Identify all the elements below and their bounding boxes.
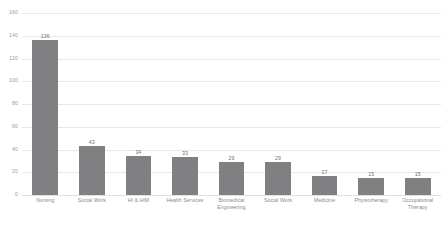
bar-chart: 160140120100806040200 136433433292917151… [0,0,443,229]
bar-slot: 15 [405,13,431,195]
x-category-label-line: HI & HIM [115,197,162,204]
x-category-label: Nursing [22,197,69,204]
y-tick-label-160: 160 [0,10,18,15]
bar-slot: 33 [172,13,198,195]
x-category-label: BiomedicalEngineering [208,197,255,211]
plot-area: 160140120100806040200 136433433292917151… [0,0,443,229]
bar-slot: 17 [312,13,338,195]
x-category-label-line: Therapy [394,204,441,211]
bar[interactable] [358,178,384,195]
x-category-label-line: Social Work [69,197,116,204]
bar-slot: 29 [265,13,291,195]
bar[interactable] [265,162,291,195]
bar[interactable] [219,162,245,195]
y-tick-label-140: 140 [0,33,18,38]
x-category-label: Social Work [69,197,116,204]
y-tick-label-20: 20 [0,169,18,174]
x-category-label-line: Biomedical [208,197,255,204]
x-category-label-line: Social Work [255,197,302,204]
bar-slot: 29 [219,13,245,195]
bar-slot: 136 [32,13,58,195]
bar-value-label: 136 [32,33,58,39]
x-axis-category-labels: NursingSocial WorkHI & HIMHealth Service… [22,197,441,227]
bar[interactable] [79,146,105,195]
y-tick-label-100: 100 [0,78,18,83]
y-tick-label-40: 40 [0,147,18,152]
bar-value-label: 29 [219,155,245,161]
bar-slot: 34 [126,13,152,195]
x-category-label-line: Occupational [394,197,441,204]
x-category-label: OccupationalTherapy [394,197,441,211]
bar[interactable] [172,157,198,195]
x-category-label: HI & HIM [115,197,162,204]
bar[interactable] [405,178,431,195]
bars-group: 1364334332929171515 [22,13,441,195]
x-category-label-line: Engineering [208,204,255,211]
gridline-0 [22,195,441,196]
bar-value-label: 15 [405,171,431,177]
x-category-label: Social Work [255,197,302,204]
y-tick-label-0: 0 [0,192,18,197]
y-tick-label-120: 120 [0,56,18,61]
bar-slot: 15 [358,13,384,195]
bar[interactable] [32,40,58,195]
x-category-label: Physiotherapy [348,197,395,204]
bar-value-label: 29 [265,155,291,161]
bar-value-label: 34 [126,149,152,155]
x-category-label-line: Medicine [301,197,348,204]
x-category-label-line: Physiotherapy [348,197,395,204]
bar-slot: 43 [79,13,105,195]
y-tick-label-60: 60 [0,124,18,129]
bar-value-label: 33 [172,150,198,156]
x-category-label: Medicine [301,197,348,204]
x-category-label: Health Services [162,197,209,204]
bar-value-label: 17 [312,169,338,175]
x-category-label-line: Health Services [162,197,209,204]
x-category-label-line: Nursing [22,197,69,204]
bar-value-label: 15 [358,171,384,177]
bar[interactable] [312,176,338,195]
bar-value-label: 43 [79,139,105,145]
y-tick-label-80: 80 [0,101,18,106]
bar[interactable] [126,156,152,195]
